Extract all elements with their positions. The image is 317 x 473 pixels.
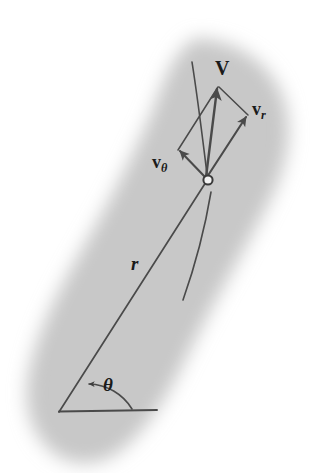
label-radial-velocity-base: v: [252, 99, 261, 119]
diagram-ink-layer: [0, 0, 317, 473]
label-radial-velocity: vr: [252, 100, 266, 121]
label-angular-velocity-subscript: θ: [161, 161, 167, 175]
label-angular-velocity-base: v: [152, 152, 161, 172]
label-radial-velocity-subscript: r: [261, 108, 266, 122]
trajectory-curve-lower: [183, 192, 211, 300]
label-angular-velocity: vθ: [152, 153, 167, 174]
label-velocity-vector: V: [215, 58, 229, 78]
polar-axis-baseline: [59, 410, 157, 412]
vector-v-theta: [180, 151, 206, 178]
label-angle-theta: θ: [103, 375, 113, 394]
particle-marker: [203, 175, 212, 184]
polar-velocity-diagram: V vr vθ r θ: [0, 0, 317, 473]
parallelogram-side-vr-to-V: [219, 87, 248, 115]
parallelogram-side-V-to-vtheta: [178, 87, 218, 150]
label-radius: r: [131, 254, 138, 273]
trajectory-curve-upper: [192, 62, 207, 174]
